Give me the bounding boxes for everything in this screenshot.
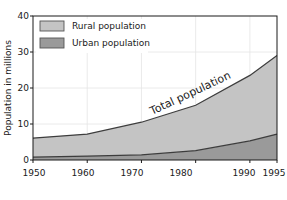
- x-tick-label-1970: 1970: [121, 168, 144, 178]
- chart-canvas: 40 30 20 10 0 1950 1960 1970 1980 1990 1…: [0, 0, 287, 200]
- legend-swatch-rural: [40, 21, 64, 31]
- x-tick-label-1995: 1995: [263, 168, 286, 178]
- population-area-chart: 40 30 20 10 0 1950 1960 1970 1980 1990 1…: [0, 0, 287, 200]
- y-tick-label-30: 30: [18, 47, 30, 57]
- legend-swatch-urban: [40, 38, 64, 48]
- y-tick-label-10: 10: [18, 119, 30, 129]
- legend-label-rural: Rural population: [72, 21, 146, 31]
- x-tick-label-1990: 1990: [233, 168, 256, 178]
- x-tick-label-1950: 1950: [23, 168, 46, 178]
- y-axis-title: Population in millions: [3, 40, 13, 136]
- x-tick-label-1980: 1980: [170, 168, 193, 178]
- y-tick-label-40: 40: [18, 11, 30, 21]
- y-tick-label-0: 0: [23, 155, 29, 165]
- chart-legend: Rural population Urban population: [36, 19, 150, 53]
- y-tick-label-20: 20: [18, 83, 30, 93]
- legend-label-urban: Urban population: [72, 38, 150, 48]
- x-tick-label-1960: 1960: [72, 168, 95, 178]
